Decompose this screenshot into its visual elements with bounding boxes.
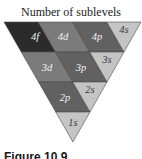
sublevel-label-3p: 3p (75, 62, 87, 73)
sublevel-label-4s: 4s (119, 24, 128, 35)
sublevel-label-2p: 2p (60, 92, 71, 103)
sublevel-label-4p: 4p (92, 31, 103, 42)
figure-caption: Figure 10.9 (4, 150, 67, 159)
sublevel-label-1s: 1s (68, 117, 77, 128)
sublevel-label-4d: 4d (58, 31, 69, 42)
sublevel-label-2s: 2s (85, 84, 94, 95)
sublevel-triangle-diagram: 4f4d4p4s3d3p3s2p2s1s (0, 0, 142, 159)
sublevel-label-3s: 3s (101, 54, 111, 65)
sublevel-label-3d: 3d (41, 62, 53, 73)
